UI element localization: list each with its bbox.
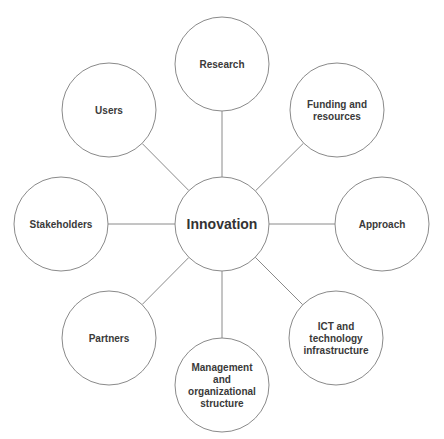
- node-label-management: and: [213, 374, 231, 385]
- node-label-ict: ICT and: [318, 321, 355, 332]
- node-partners: Partners: [62, 291, 156, 385]
- node-label-ict: technology: [309, 333, 363, 344]
- connector-partners: [142, 257, 189, 304]
- node-stakeholders: Stakeholders: [14, 177, 108, 271]
- node-label-funding: Funding and: [307, 99, 367, 110]
- node-label-management: organizational: [188, 386, 256, 397]
- node-label-stakeholders: Stakeholders: [30, 219, 93, 230]
- node-label-management: structure: [200, 398, 244, 409]
- node-research: Research: [175, 17, 269, 111]
- node-label-funding: resources: [313, 111, 361, 122]
- node-label-research: Research: [199, 59, 244, 70]
- node-funding: Funding andresources: [290, 63, 384, 157]
- node-label-ict: infrastructure: [303, 345, 368, 356]
- node-approach: Approach: [335, 177, 429, 271]
- node-label-approach: Approach: [359, 219, 406, 230]
- node-ict: ICT andtechnologyinfrastructure: [289, 291, 383, 385]
- connector-ict: [255, 257, 303, 305]
- connector-users: [142, 143, 189, 190]
- center-node: Innovation: [175, 177, 269, 271]
- innovation-diagram: ResearchFunding andresourcesApproachICT …: [0, 0, 444, 439]
- node-label-management: Management: [191, 362, 253, 373]
- node-label-users: Users: [95, 105, 123, 116]
- node-label-partners: Partners: [89, 333, 130, 344]
- node-management: Managementandorganizationalstructure: [175, 338, 269, 432]
- center-label: Innovation: [187, 216, 258, 232]
- connector-funding: [255, 143, 303, 191]
- node-users: Users: [62, 63, 156, 157]
